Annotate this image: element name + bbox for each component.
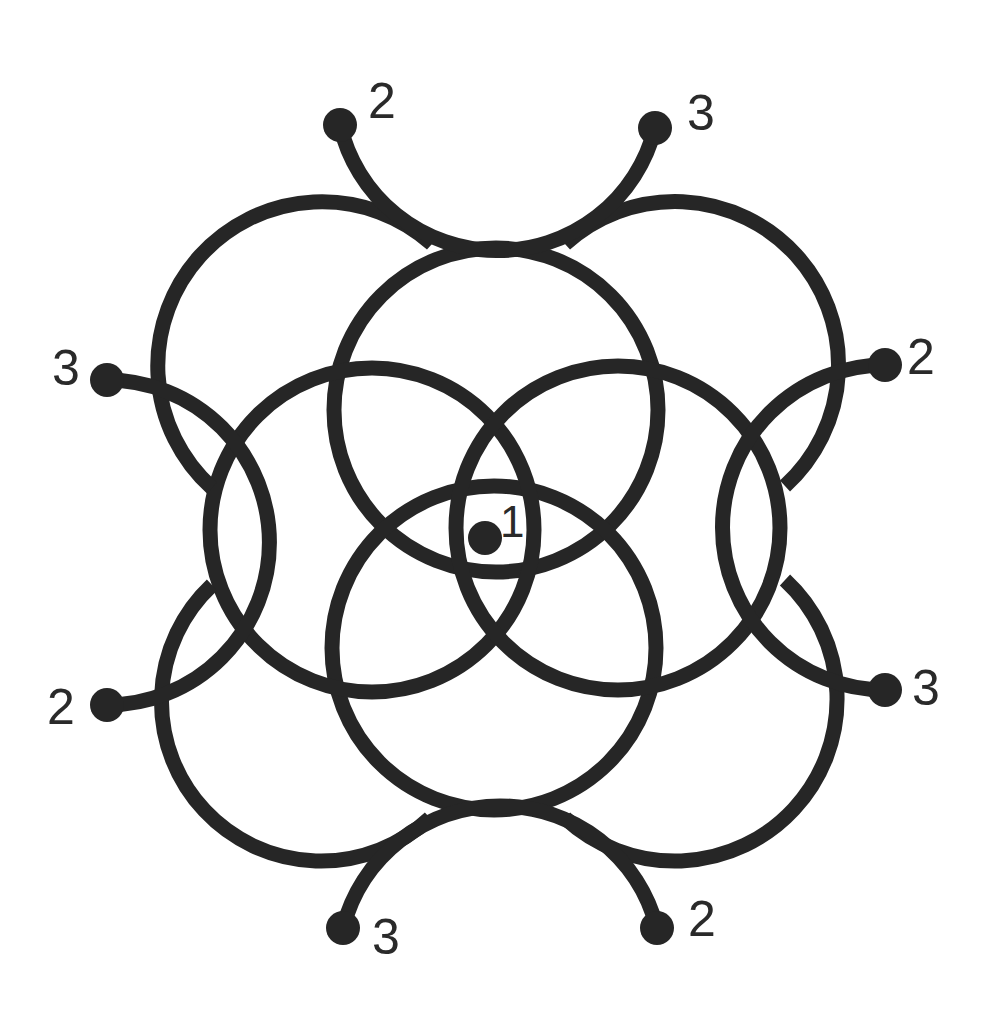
endpoint-dot-top-left[interactable]: [323, 108, 357, 142]
corner-arc-top-right: [565, 201, 839, 486]
endpoint-label-right-top: 2: [907, 332, 935, 382]
maze-diagram: 1 2 3 2 3 2 3 2 3: [0, 0, 991, 1011]
start-label: 1: [500, 500, 524, 544]
endpoint-dot-right-bottom[interactable]: [868, 673, 902, 707]
endpoint-label-left-top: 3: [52, 343, 80, 393]
endpoint-label-top-right: 3: [687, 88, 715, 138]
endpoint-label-left-bottom: 2: [47, 682, 75, 732]
endpoint-dot-top-right[interactable]: [638, 111, 672, 145]
endpoint-label-top-left: 2: [368, 76, 396, 126]
endpoint-dot-left-top[interactable]: [90, 363, 124, 397]
endpoint-label-bottom-left: 3: [372, 912, 400, 962]
endpoint-label-bottom-right: 2: [688, 894, 716, 944]
corner-arc-bottom-right: [565, 580, 837, 861]
start-dot[interactable]: [468, 521, 502, 555]
endpoint-dot-bottom-left[interactable]: [326, 911, 360, 945]
maze-svg: [0, 0, 991, 1011]
endpoint-dot-bottom-right[interactable]: [640, 911, 674, 945]
corner-arc-top-left: [158, 202, 432, 488]
corner-arc-bottom-left: [161, 585, 430, 861]
endpoint-dot-left-bottom[interactable]: [90, 688, 124, 722]
hub-arc-right: [722, 365, 885, 690]
hub-arc-top: [340, 125, 655, 251]
endpoint-label-right-bottom: 3: [912, 663, 940, 713]
endpoint-dot-right-top[interactable]: [868, 348, 902, 382]
